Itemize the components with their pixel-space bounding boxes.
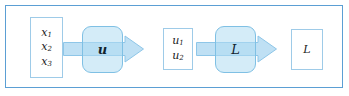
control-operator-label: u [98,42,107,57]
state-vector-box: x1 x2 x3 [30,17,63,78]
diagram-canvas: x1 x2 x3 u u1 u2 L L [0,0,349,96]
loss-operator-label: L [231,42,240,57]
control-vector-box: u1 u2 [163,28,193,70]
loss-output-box: L [291,29,323,70]
variable-L: L [303,44,310,56]
variable-x3: x3 [41,56,52,69]
variable-u1: u1 [172,35,184,48]
variable-x1: x1 [41,27,52,40]
variable-u2: u2 [172,50,184,63]
variable-x2: x2 [41,41,52,54]
loss-operator-box: L [215,26,256,73]
control-operator-box: u [82,26,123,73]
